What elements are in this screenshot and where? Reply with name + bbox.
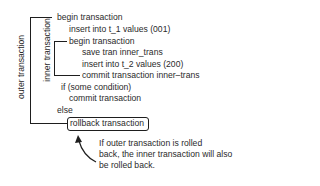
annotation-line-1: If outer transaction is rolled bbox=[99, 138, 202, 148]
annotation-line-3: be rolled back. bbox=[99, 160, 155, 170]
annotation-line-2: back, the inner transaction will also bbox=[99, 149, 232, 159]
